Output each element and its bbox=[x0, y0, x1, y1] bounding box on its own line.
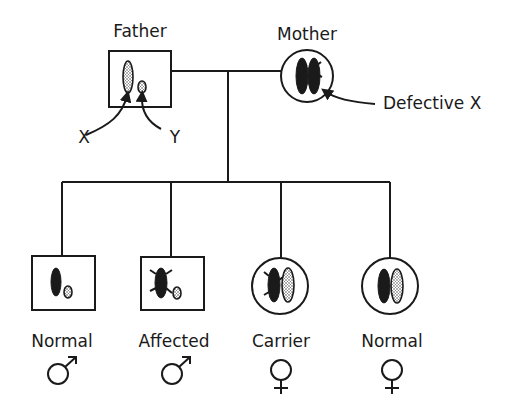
daughter-1-defective-x bbox=[268, 268, 280, 302]
child-affected-son: Affected bbox=[138, 257, 209, 384]
female-symbol-icon bbox=[382, 360, 402, 394]
child-carrier-daughter: Carrier bbox=[252, 258, 310, 394]
male-symbol-icon bbox=[162, 357, 190, 384]
female-symbol-icon bbox=[271, 360, 291, 394]
male-symbol-icon bbox=[48, 357, 76, 384]
child-normal-son: Normal bbox=[31, 256, 95, 384]
father-label: Father bbox=[113, 21, 167, 41]
mother-label: Mother bbox=[277, 24, 337, 44]
father-square bbox=[109, 51, 171, 107]
defective-x-label: Defective X bbox=[383, 93, 482, 113]
y-label: Y bbox=[169, 127, 181, 147]
son-2-y-chromosome bbox=[173, 287, 181, 299]
daughter-2-x-chromosome-1 bbox=[378, 269, 390, 303]
child-normal-daughter: Normal bbox=[361, 258, 423, 394]
child-4-label: Normal bbox=[361, 331, 423, 351]
x-label: X bbox=[78, 127, 90, 147]
defective-pointer-arrow bbox=[326, 92, 375, 104]
son-2-square bbox=[141, 257, 204, 310]
child-3-label: Carrier bbox=[252, 331, 310, 351]
father-node: Father X Y bbox=[78, 21, 181, 147]
daughter-2-x-chromosome-2 bbox=[391, 269, 403, 303]
x-linked-inheritance-pedigree: Father X Y Mother Defective X Normal bbox=[0, 0, 520, 419]
mother-node: Mother Defective X bbox=[277, 24, 482, 113]
child-2-label: Affected bbox=[138, 331, 209, 351]
son-1-x-chromosome bbox=[51, 268, 61, 296]
father-y-chromosome bbox=[138, 81, 146, 93]
child-1-label: Normal bbox=[31, 331, 93, 351]
mother-normal-x bbox=[296, 58, 308, 94]
son-1-square bbox=[32, 256, 95, 310]
son-1-y-chromosome bbox=[64, 286, 72, 298]
daughter-1-normal-x bbox=[282, 268, 294, 302]
father-x-chromosome bbox=[123, 61, 133, 93]
son-2-defective-x bbox=[155, 268, 167, 298]
